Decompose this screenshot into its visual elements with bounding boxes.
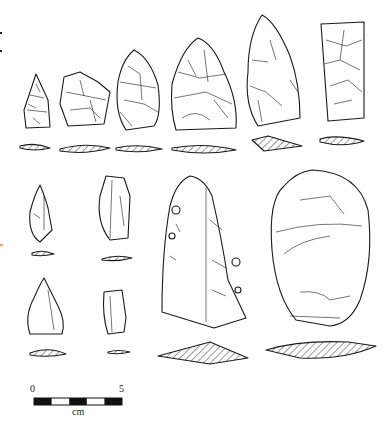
artifact-elongated-biface xyxy=(247,15,302,151)
artifact-small-irregular-flake xyxy=(30,185,54,256)
edge-marks xyxy=(0,32,3,246)
scale-bar xyxy=(34,398,122,405)
artifact-large-retouched-blade xyxy=(158,176,248,364)
lithic-illustration xyxy=(0,0,392,425)
artifact-triangular-point xyxy=(20,74,50,150)
artifact-small-blade-segment xyxy=(104,290,131,354)
artifact-ovate-biface xyxy=(116,50,162,152)
artifact-large-biface xyxy=(172,38,237,153)
artifact-triangular-flake xyxy=(28,278,66,356)
scale-max-label: 5 xyxy=(119,383,124,394)
artifact-rectangular-blade xyxy=(320,22,364,145)
scale-unit-label: cm xyxy=(72,406,84,417)
artifact-core-scraper xyxy=(266,170,376,358)
artifact-blade-fragment xyxy=(99,176,132,261)
artifact-trapezoidal-flake xyxy=(60,72,110,152)
scale-min-label: 0 xyxy=(30,383,35,394)
